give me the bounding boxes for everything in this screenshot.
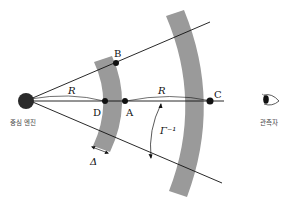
- label-distance-r-right: R: [157, 85, 166, 96]
- superluminal-diagram: B D A C R R Γ⁻¹ Δ 중심 엔진 관측자: [0, 0, 294, 205]
- label-distance-r-left: R: [67, 85, 76, 96]
- label-point-d: D: [93, 107, 101, 118]
- label-observer: 관측자: [260, 118, 278, 127]
- label-point-a: A: [125, 107, 134, 118]
- point-d: [102, 98, 108, 104]
- label-beam-angle: Γ⁻¹: [159, 125, 176, 136]
- beam-angle-arrow-top: [159, 103, 163, 108]
- central-engine: [18, 93, 34, 109]
- label-central-engine: 중심 엔진: [10, 118, 36, 127]
- point-a: [122, 98, 128, 104]
- beam-angle-arrow-bottom: [149, 154, 153, 159]
- eye-icon: [262, 94, 279, 105]
- label-point-b: B: [114, 48, 121, 59]
- label-shell-thickness: Δ: [89, 156, 97, 167]
- r-arc-left: [30, 96, 104, 101]
- point-b: [113, 60, 119, 66]
- label-point-c: C: [214, 89, 222, 100]
- point-c: [207, 98, 214, 105]
